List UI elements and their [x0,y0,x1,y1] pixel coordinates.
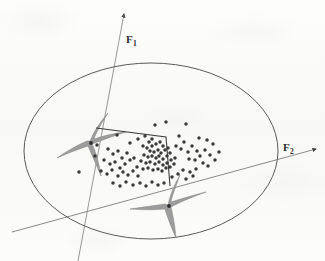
scatter-point [102,158,106,162]
scatter-point [162,181,166,185]
scatter-point [163,148,167,152]
scatter-point [152,150,156,154]
scatter-points-layer [77,120,221,188]
scatter-point [168,165,172,169]
scatter-point [164,120,168,124]
scatter-point [203,148,207,152]
scatter-point [93,154,97,158]
scatter-point [168,151,172,155]
scatter-point [211,142,215,146]
scatter-point [146,166,150,170]
scatter-point [188,170,192,174]
scatter-point [169,158,173,162]
scatter-point [131,169,135,173]
scatter-point [206,164,210,168]
scatter-point [201,161,205,165]
scatter-point [161,144,165,148]
scatter-point [124,180,128,184]
star-bottom-centroid [167,204,171,208]
scatter-point [176,172,180,176]
scatter-point [190,144,194,148]
axis-label-f2-subscript: 2 [290,147,294,156]
scatter-point [141,167,145,171]
scatter-point [139,159,143,163]
scatter-point [132,156,136,160]
axis-label-f2-text: F [283,141,290,153]
scatter-point [150,154,154,158]
scatter-point [165,154,169,158]
scatter-point [105,172,109,176]
scatter-point [213,158,217,162]
scatter-point [116,149,120,153]
scatter-point [186,150,190,154]
axis-label-f1-text: F [126,33,133,45]
scatter-point [138,181,142,185]
scatter-point [208,153,212,157]
scatter-point [157,160,161,164]
scatter-point [153,162,157,166]
scatter-point [144,184,148,188]
scatter-point [142,153,146,157]
scatter-point [159,151,163,155]
scatter-point [136,137,140,141]
scatter-point [158,140,162,144]
scatter-point [187,157,191,161]
scatter-point [198,154,202,158]
scatter-point [156,148,160,152]
scatter-point [170,175,174,179]
scatter-point [205,138,209,142]
scatter-point [128,158,132,162]
scatter-point [144,161,148,165]
scatter-point [111,152,115,156]
scatter-point [143,134,147,138]
scatter-point [153,123,157,127]
scatter-point [126,173,130,177]
scatter-point [136,174,140,178]
scatter-point [166,146,170,150]
scatter-point [156,183,160,187]
scatter-point [154,156,158,160]
scatter-point [164,166,168,170]
scatter-point [145,146,149,150]
figure-canvas [0,0,325,261]
scatter-point [131,183,135,187]
scatter-point [95,143,99,147]
axis-label-f1-subscript: 1 [133,39,137,48]
star-left-centroid [89,141,93,145]
scatter-point [106,147,110,151]
scatter-point [150,180,154,184]
scatter-point [191,174,195,178]
scatter-point [77,170,81,174]
scatter-point [217,150,221,154]
scatter-point [184,122,188,126]
scatter-point [179,147,183,151]
scatter-point [120,156,124,160]
scatter-point [125,151,129,155]
scatter-point [99,169,103,173]
scatter-point [177,134,181,138]
axis-f2-line [12,149,316,232]
scatter-point [123,162,127,166]
scatter-point [156,167,160,171]
scatter-point [118,166,122,170]
scatter-point [150,144,154,148]
scatter-point [115,133,119,137]
scatter-point [113,160,117,164]
scatter-point [160,169,164,173]
scatter-point [161,163,165,167]
scatter-point [161,157,165,161]
scatter-point [128,141,132,145]
scatter-point [194,167,198,171]
scatter-point [195,149,199,153]
scatter-point [173,156,177,160]
scatter-point [141,144,145,148]
scatter-point [165,161,169,165]
scatter-point [151,168,155,172]
scatter-point [111,181,115,185]
scatter-point [148,160,152,164]
figure-container: F1 F2 [0,0,325,261]
scatter-point [172,162,176,166]
scatter-point [110,168,114,172]
scatter-point [116,174,120,178]
scatter-point [193,158,197,162]
